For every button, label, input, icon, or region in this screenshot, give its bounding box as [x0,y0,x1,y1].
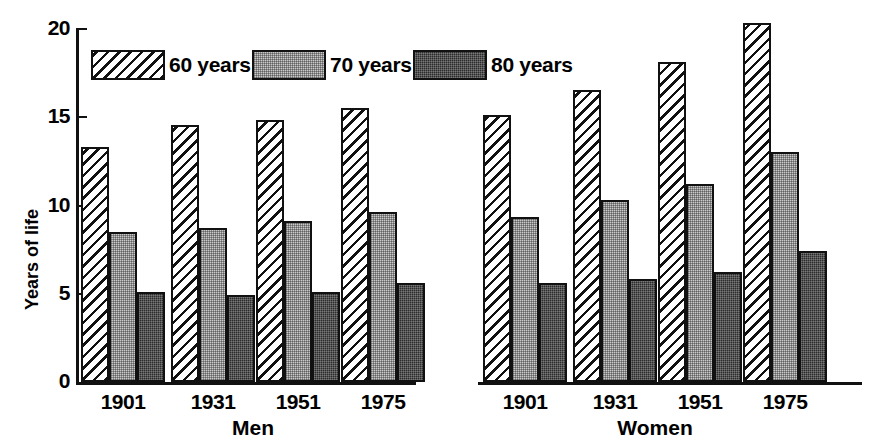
y-tick-20 [79,28,87,30]
bar-chart: 20 15 10 5 0 Years of life 60 years 70 y… [0,0,872,445]
bar-women-1975-60 [743,23,771,382]
hatch-swatch [91,50,165,80]
y-tick-label-0: 0 [26,370,70,391]
x-tick-label-women-1975: 1975 [745,390,825,414]
y-tick-label-15: 15 [26,105,70,126]
legend-item-80-years[interactable]: 80 years [413,50,573,80]
bar-women-1951-60 [658,62,686,382]
bar-men-1951-80 [312,292,340,382]
bar-women-1931-80 [629,279,657,382]
legend-label-80-years: 80 years [491,53,573,77]
group-label-women: Women [585,416,725,440]
bar-women-1975-70 [771,152,799,382]
y-axis-title: Years of life [22,209,43,310]
bar-women-1901-80 [539,283,567,382]
x-tick-label-women-1901: 1901 [485,390,565,414]
x-tick-label-men-1951: 1951 [258,390,338,414]
bar-men-1951-60 [256,120,284,382]
bar-women-1951-80 [714,272,742,382]
light-stipple-swatch [252,50,326,80]
legend-label-70-years: 70 years [330,53,412,77]
bar-men-1931-60 [171,125,199,382]
legend-label-60-years: 60 years [169,53,251,77]
bar-men-1975-80 [397,283,425,382]
bar-men-1901-60 [81,147,109,382]
bar-women-1901-70 [511,217,539,382]
bar-men-1931-70 [199,228,227,382]
bar-women-1951-70 [686,184,714,382]
y-tick-label-20: 20 [26,17,70,38]
bar-men-1975-70 [369,212,397,382]
legend-item-60-years[interactable]: 60 years [91,50,251,80]
legend-item-70-years[interactable]: 70 years [252,50,412,80]
x-axis-line-women [478,382,862,385]
x-tick-label-men-1931: 1931 [173,390,253,414]
bar-women-1901-60 [483,115,511,382]
x-tick-label-men-1975: 1975 [343,390,423,414]
bar-women-1975-80 [799,251,827,382]
x-tick-label-men-1901: 1901 [83,390,163,414]
x-tick-label-women-1951: 1951 [660,390,740,414]
group-label-men: Men [183,416,323,440]
x-axis-line-men [76,382,416,385]
bar-men-1901-70 [109,232,137,382]
bar-men-1901-80 [137,292,165,382]
bar-men-1931-80 [227,295,255,382]
bar-women-1931-60 [573,90,601,382]
bar-men-1975-60 [341,108,369,382]
x-tick-label-women-1931: 1931 [575,390,655,414]
y-tick-15 [79,116,87,118]
bar-women-1931-70 [601,200,629,382]
bar-men-1951-70 [284,221,312,382]
dark-stipple-swatch [413,50,487,80]
